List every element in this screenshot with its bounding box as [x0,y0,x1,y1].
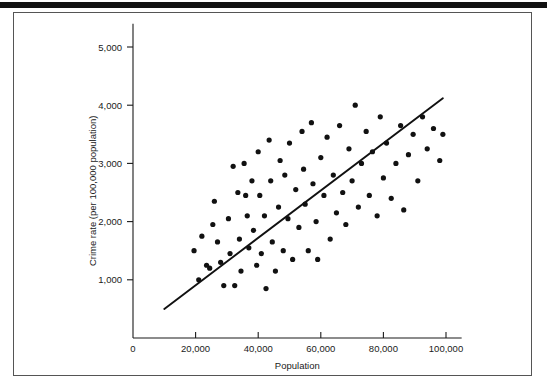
data-point [398,123,403,128]
data-point [364,129,369,134]
y-tick-label: 4,000 [98,100,122,111]
data-point [331,172,336,177]
data-point [401,207,406,212]
data-point [411,132,416,137]
data-point [287,140,292,145]
data-point [226,216,231,221]
y-tick-label: 3,000 [98,158,122,169]
data-point [431,126,436,131]
data-point [381,175,386,180]
x-tick-label: 40,000 [244,343,273,354]
data-point [221,283,226,288]
data-point [296,225,301,230]
y-tick-label: 2,000 [98,216,122,227]
data-point [199,234,204,239]
data-point [257,193,262,198]
data-point [415,178,420,183]
data-point [337,123,342,128]
data-point [210,222,215,227]
data-point [227,251,232,256]
data-point [232,283,237,288]
data-point [437,158,442,163]
data-point [243,193,248,198]
data-point [237,236,242,241]
data-point [318,155,323,160]
data-point [270,239,275,244]
data-point [314,219,319,224]
data-point [215,239,220,244]
data-point [425,146,430,151]
data-point [340,190,345,195]
axes [127,24,462,338]
x-tick-label: 20,000 [181,343,210,354]
data-point [375,213,380,218]
data-point [378,114,383,119]
data-point [273,268,278,273]
data-point [393,161,398,166]
data-point [406,152,411,157]
data-point [353,103,358,108]
data-point [282,172,287,177]
data-point [263,286,268,291]
data-point [356,204,361,209]
data-point [334,210,339,215]
data-point [278,158,283,163]
x-tick-label: 80,000 [369,343,398,354]
data-point [267,138,272,143]
data-point [309,120,314,125]
data-point [350,178,355,183]
data-point [245,213,250,218]
data-point [310,181,315,186]
data-point [321,193,326,198]
data-point [254,263,259,268]
axis-labels: 1,0002,0003,0004,0005,000020,00040,00060… [87,42,463,372]
data-point [235,190,240,195]
data-point [343,222,348,227]
data-point [259,251,264,256]
data-point [328,236,333,241]
data-point [389,196,394,201]
data-point [262,213,267,218]
x-axis-title: Population [275,360,320,371]
data-point [324,135,329,140]
data-point [256,149,261,154]
data-point [268,178,273,183]
x-tick-label: 0 [130,343,135,354]
y-tick-label: 5,000 [98,42,122,53]
data-point [207,266,212,271]
data-point [306,248,311,253]
data-point [315,257,320,262]
x-tick-label: 100,000 [429,343,463,354]
data-point [281,248,286,253]
scatter-plot-figure: 1,0002,0003,0004,0005,000020,00040,00060… [0,0,547,388]
data-point [238,268,243,273]
y-tick-label: 1,000 [98,274,122,285]
y-axis-title: Crime rate (per 100,000 population) [87,116,98,267]
data-point [242,161,247,166]
data-point [276,204,281,209]
data-point [290,257,295,262]
data-point [249,178,254,183]
data-point [251,228,256,233]
data-point [212,199,217,204]
data-point [299,129,304,134]
data-points [191,103,445,292]
data-point [231,164,236,169]
data-point [191,248,196,253]
data-point [346,146,351,151]
plot-canvas: 1,0002,0003,0004,0005,000020,00040,00060… [0,0,547,388]
data-point [293,187,298,192]
data-point [367,193,372,198]
data-point [301,167,306,172]
data-point [440,132,445,137]
x-tick-label: 60,000 [306,343,335,354]
